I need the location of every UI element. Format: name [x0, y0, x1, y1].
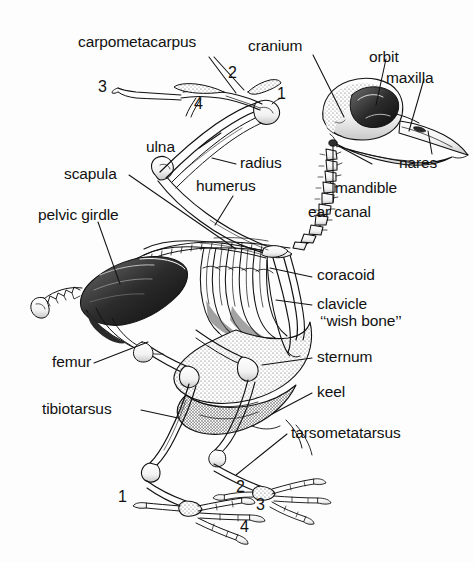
toe-digit-3: 3: [256, 496, 265, 514]
skull-group: [323, 78, 468, 165]
label-humerus: humerus: [196, 178, 256, 194]
cervical-vertebrae: [293, 149, 342, 250]
label-orbit: orbit: [369, 49, 399, 65]
toe-digit-4: 4: [240, 518, 249, 536]
ulna-radius: [160, 100, 280, 188]
label-maxilla: maxilla: [386, 70, 434, 86]
toe-digit-1: 1: [118, 488, 127, 506]
label-sternum: sternum: [317, 349, 372, 365]
wing-digit-2: 2: [228, 64, 237, 82]
label-ulna: ulna: [146, 139, 175, 155]
toe-digit-2: 2: [236, 478, 245, 496]
label-wish-bone: ‘‘wish bone’’: [320, 313, 402, 329]
far-foot-digits: [213, 479, 331, 525]
label-clavicle: clavicle: [317, 296, 367, 312]
label-mandible: mandible: [335, 180, 397, 196]
wing-digit-4: 4: [194, 95, 203, 113]
label-femur: femur: [52, 354, 91, 370]
label-nares: nares: [399, 155, 437, 171]
wing-digit-1: 1: [277, 85, 286, 103]
wing-digit-3: 3: [98, 78, 107, 96]
label-ear-canal: ear canal: [308, 204, 371, 220]
label-carpometacarpus: carpometacarpus: [78, 34, 196, 50]
label-tibiotarsus: tibiotarsus: [42, 401, 112, 417]
label-pelvic-girdle: pelvic girdle: [38, 207, 119, 223]
label-coracoid: coracoid: [317, 267, 375, 283]
caudal-vertebrae-pygostyle: [31, 287, 82, 318]
pelvic-girdle: [80, 256, 187, 325]
bird-skeleton-diagram: carpometacarpus cranium orbit maxilla na…: [0, 0, 474, 563]
label-keel: keel: [317, 384, 345, 400]
label-scapula: scapula: [64, 166, 117, 182]
label-tarsometatarsus: tarsometatarsus: [291, 425, 401, 441]
label-radius: radius: [240, 155, 282, 171]
label-cranium: cranium: [248, 38, 302, 54]
